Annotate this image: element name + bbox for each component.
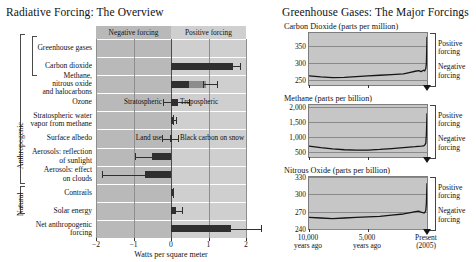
- vertical-error-stratospheric-water-vapor: [173, 115, 174, 125]
- x-tick-label: −1: [122, 240, 146, 249]
- right-panel-title: Greenhouse Gases: The Major Forcings: [282, 6, 469, 18]
- radiative-forcing-plot: Negative forcing Positive forcing Strato…: [96, 26, 246, 238]
- error-cap: [160, 171, 161, 178]
- methane-chart-plot: 5001,0001,5002,000: [308, 104, 428, 158]
- vertical-gridline: [246, 39, 247, 238]
- bar-carbon-dioxide: [171, 63, 233, 70]
- negative-forcing-label: Negativeforcing: [438, 207, 465, 224]
- radiative-forcing-panel: Radiative Forcing: The Overview Anthropo…: [0, 0, 272, 262]
- x-axis-title: Watts per square meter: [96, 250, 246, 259]
- vertical-error-contrails: [173, 188, 174, 198]
- gas-y-tick-label: 270: [295, 207, 306, 216]
- methane-chart-line: [309, 105, 427, 157]
- negative-forcing-label: Negativeforcing: [438, 63, 465, 80]
- positive-forcing-header: Positive forcing: [171, 26, 246, 39]
- row-label-methane-n2o-halocarbons: Methane,nitrous oxideand halocarbons: [4, 72, 92, 97]
- error-cap: [135, 153, 136, 160]
- error-bar-aerosols-clouds: [102, 175, 160, 176]
- annotation-land-use: Land use: [136, 134, 162, 142]
- bar-methane-n2o-halocarbons: [171, 81, 189, 88]
- greenhouse-gases-panel: Greenhouse Gases: The Major Forcings Car…: [272, 0, 476, 262]
- annotation-tropospheric: Tropospheric: [180, 98, 218, 106]
- nitrous-oxide-chart-line: [309, 177, 427, 229]
- error-cap: [178, 135, 179, 142]
- gas-y-tick-label: 1,500: [289, 117, 306, 126]
- row-label-ozone: Ozone: [4, 98, 92, 106]
- row-label-aerosols-reflection: Aerosols: reflectionof sunlight: [4, 148, 92, 165]
- row-label-greenhouse-gases: Greenhouse gases: [4, 44, 92, 52]
- positive-forcing-label: Positiveforcing: [438, 40, 462, 57]
- error-cap: [182, 207, 183, 214]
- carbon-dioxide-chart: Carbon Dioxide (parts per million)250300…: [282, 22, 476, 86]
- positive-forcing-label: Positiveforcing: [438, 184, 462, 201]
- gas-y-tick-label: 350: [295, 42, 306, 51]
- error-bar-surface-albedo: [162, 139, 178, 140]
- forcing-bracket: [430, 177, 436, 231]
- row-label-solar-energy: Solar energy: [4, 207, 92, 215]
- error-bar-methane-n2o-halocarbons: [203, 84, 217, 85]
- error-cap: [194, 225, 195, 232]
- error-cap: [240, 63, 241, 70]
- x-tick-label: 1: [197, 240, 221, 249]
- forcing-bracket: [430, 33, 436, 87]
- gas-y-tick-label: 500: [295, 147, 306, 156]
- error-cap: [227, 63, 228, 70]
- error-bar-net-anthropogenic: [194, 229, 262, 230]
- x-tick-label: −2: [84, 240, 108, 249]
- row-label-surface-albedo: Surface albedo: [4, 134, 92, 142]
- error-bar-carbon-dioxide: [227, 66, 240, 67]
- x-tick-label: 0: [159, 240, 183, 249]
- forcing-bracket: [430, 105, 436, 159]
- gas-x-tick: [309, 229, 310, 232]
- row-label-contrails: Contrails: [4, 189, 92, 197]
- gas-x-axis-label: Present(2005): [399, 234, 453, 251]
- error-cap: [176, 117, 177, 124]
- gas-y-tick-label: 330: [295, 173, 306, 182]
- gas-x-tick: [368, 85, 369, 88]
- gas-y-tick-label: 1,000: [289, 132, 306, 141]
- gas-x-tick: [368, 229, 369, 232]
- gas-x-axis-label: 10,000years ago: [281, 234, 335, 251]
- error-cap: [167, 153, 168, 160]
- positive-forcing-label: Positiveforcing: [438, 112, 462, 129]
- negative-forcing-header: Negative forcing: [96, 26, 171, 39]
- negative-forcing-label: Negativeforcing: [438, 135, 465, 152]
- gas-x-tick: [309, 85, 310, 88]
- gas-y-tick-label: 300: [295, 59, 306, 68]
- methane-chart-title: Methane (parts per billion): [284, 94, 476, 103]
- carbon-dioxide-chart-plot: 250300350: [308, 32, 428, 86]
- row-label-carbon-dioxide: Carbon dioxide: [4, 62, 92, 70]
- vertical-gridline: [96, 39, 97, 238]
- page-title: Radiative Forcing: The Overview: [6, 6, 164, 18]
- error-cap: [261, 225, 262, 232]
- x-tick-label: 2: [234, 240, 258, 249]
- carbon-dioxide-chart-title: Carbon Dioxide (parts per million): [284, 22, 476, 31]
- error-bar-solar-energy: [173, 211, 182, 212]
- gas-y-tick-label: 250: [295, 75, 306, 84]
- error-cap: [102, 171, 103, 178]
- gas-x-tick: [309, 157, 310, 160]
- gas-x-axis-label: 5,000years ago: [340, 234, 394, 251]
- vertical-gridline: [134, 39, 135, 238]
- gas-y-tick-label: 2,000: [289, 102, 306, 111]
- error-cap: [163, 99, 164, 106]
- error-cap: [203, 81, 204, 88]
- row-label-stratospheric-water-vapor: Stratospheric watervapor from methane: [4, 112, 92, 129]
- gas-y-tick-label: 300: [295, 190, 306, 199]
- nitrous-oxide-chart: Nitrous Oxide (parts per billion)2402703…: [282, 166, 476, 230]
- annotation-stratospheric: Stratospheric: [124, 98, 162, 106]
- error-cap: [217, 81, 218, 88]
- nitrous-oxide-chart-plot: 240270300330: [308, 176, 428, 230]
- methane-chart: Methane (parts per billion)5001,0001,500…: [282, 94, 476, 158]
- row-label-aerosols-clouds: Aerosols: effecton clouds: [4, 166, 92, 183]
- error-bar-aerosols-reflection: [135, 157, 167, 158]
- row-label-net-anthropogenic: Net anthropogenicforcing: [4, 221, 92, 238]
- carbon-dioxide-chart-line: [309, 33, 427, 85]
- error-cap: [173, 207, 174, 214]
- annotation-black-carbon-on-snow: Black carbon on snow: [180, 134, 244, 142]
- nitrous-oxide-chart-title: Nitrous Oxide (parts per billion): [284, 166, 476, 175]
- gas-x-tick: [368, 157, 369, 160]
- row-label-column: Greenhouse gasesCarbon dioxideMethane,ni…: [4, 26, 92, 238]
